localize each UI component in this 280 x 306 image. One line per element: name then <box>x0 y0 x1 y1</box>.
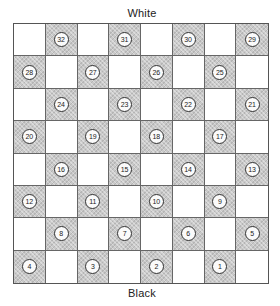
dark-square: 21 <box>236 89 268 121</box>
dark-square: 9 <box>205 186 237 218</box>
square-number-circle: 7 <box>117 226 132 241</box>
light-square <box>109 186 141 218</box>
dark-square: 26 <box>141 56 173 88</box>
light-square <box>173 121 205 153</box>
light-square <box>109 251 141 283</box>
light-square <box>236 121 268 153</box>
light-square <box>173 186 205 218</box>
dark-square: 25 <box>205 56 237 88</box>
dark-square: 4 <box>14 251 46 283</box>
square-number-circle: 30 <box>181 32 196 47</box>
square-number-circle: 6 <box>181 226 196 241</box>
square-number-circle: 29 <box>245 32 260 47</box>
light-square <box>205 154 237 186</box>
square-number-circle: 10 <box>149 194 164 209</box>
square-number-circle: 17 <box>212 129 227 144</box>
square-number-circle: 26 <box>149 65 164 80</box>
dark-square: 18 <box>141 121 173 153</box>
square-number-circle: 24 <box>54 97 69 112</box>
dark-square: 24 <box>46 89 78 121</box>
square-number-circle: 5 <box>245 226 260 241</box>
white-side-label: White <box>2 7 280 19</box>
dark-square: 14 <box>173 154 205 186</box>
square-number-circle: 15 <box>117 162 132 177</box>
light-square <box>205 24 237 56</box>
black-side-label: Black <box>2 287 280 299</box>
light-square <box>173 251 205 283</box>
square-number-circle: 3 <box>85 259 100 274</box>
dark-square: 32 <box>46 24 78 56</box>
square-number-circle: 25 <box>212 65 227 80</box>
dark-square: 16 <box>46 154 78 186</box>
dark-square: 22 <box>173 89 205 121</box>
dark-square: 5 <box>236 218 268 250</box>
light-square <box>236 251 268 283</box>
light-square <box>46 121 78 153</box>
light-square <box>78 154 110 186</box>
dark-square: 17 <box>205 121 237 153</box>
dark-square: 1 <box>205 251 237 283</box>
square-number-circle: 9 <box>212 194 227 209</box>
square-number-circle: 4 <box>22 259 37 274</box>
light-square <box>78 89 110 121</box>
dark-square: 29 <box>236 24 268 56</box>
square-number-circle: 1 <box>212 259 227 274</box>
square-number-circle: 27 <box>85 65 100 80</box>
light-square <box>14 24 46 56</box>
square-number-circle: 21 <box>245 97 260 112</box>
dark-square: 19 <box>78 121 110 153</box>
light-square <box>14 89 46 121</box>
light-square <box>236 56 268 88</box>
light-square <box>78 24 110 56</box>
dark-square: 28 <box>14 56 46 88</box>
light-square <box>141 154 173 186</box>
square-number-circle: 20 <box>22 129 37 144</box>
light-square <box>109 56 141 88</box>
square-number-circle: 14 <box>181 162 196 177</box>
dark-square: 30 <box>173 24 205 56</box>
square-number-circle: 18 <box>149 129 164 144</box>
square-number-circle: 22 <box>181 97 196 112</box>
square-number-circle: 19 <box>85 129 100 144</box>
dark-square: 31 <box>109 24 141 56</box>
light-square <box>46 56 78 88</box>
dark-square: 3 <box>78 251 110 283</box>
light-square <box>14 218 46 250</box>
dark-square: 11 <box>78 186 110 218</box>
dark-square: 8 <box>46 218 78 250</box>
light-square <box>173 56 205 88</box>
square-number-circle: 23 <box>117 97 132 112</box>
dark-square: 15 <box>109 154 141 186</box>
square-number-circle: 12 <box>22 194 37 209</box>
square-number-circle: 11 <box>85 194 100 209</box>
light-square <box>236 186 268 218</box>
dark-square: 6 <box>173 218 205 250</box>
square-number-circle: 28 <box>22 65 37 80</box>
dark-square: 12 <box>14 186 46 218</box>
light-square <box>78 218 110 250</box>
light-square <box>14 154 46 186</box>
square-number-circle: 31 <box>117 32 132 47</box>
dark-square: 10 <box>141 186 173 218</box>
dark-square: 23 <box>109 89 141 121</box>
light-square <box>141 89 173 121</box>
dark-square: 2 <box>141 251 173 283</box>
light-square <box>109 121 141 153</box>
dark-square: 7 <box>109 218 141 250</box>
light-square <box>205 89 237 121</box>
light-square <box>46 251 78 283</box>
dark-square: 27 <box>78 56 110 88</box>
light-square <box>46 186 78 218</box>
square-number-circle: 32 <box>54 32 69 47</box>
square-number-circle: 8 <box>54 226 69 241</box>
dark-square: 13 <box>236 154 268 186</box>
square-number-circle: 2 <box>149 259 164 274</box>
checkerboard: 3231302928272625242322212019181716151413… <box>13 23 269 284</box>
dark-square: 20 <box>14 121 46 153</box>
square-number-circle: 16 <box>54 162 69 177</box>
light-square <box>141 218 173 250</box>
square-number-circle: 13 <box>245 162 260 177</box>
light-square <box>205 218 237 250</box>
light-square <box>141 24 173 56</box>
